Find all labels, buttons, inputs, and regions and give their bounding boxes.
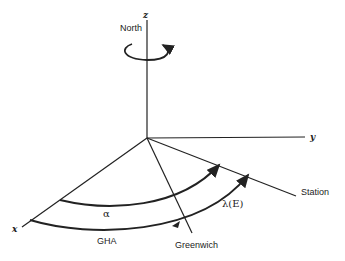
y-axis-label: y [309,132,316,142]
greenwich-label: Greenwich [175,240,218,250]
gha-label: GHA [97,236,117,246]
station-label: Station [301,187,329,197]
x-axis [22,138,147,227]
lambda-label: λ(E) [222,198,244,209]
station-line [147,138,296,196]
x-axis-label: x [11,224,18,234]
alpha-arc [60,165,219,206]
y-axis [147,137,305,138]
diagram-svg: z y x North Station Greenwich GHA α λ(E) [0,0,345,261]
north-label: North [120,23,142,33]
alpha-label: α [103,208,110,219]
gha-lambda-arc [30,175,248,230]
coordinate-diagram: z y x North Station Greenwich GHA α λ(E) [0,0,345,261]
z-axis-label: z [142,10,149,20]
